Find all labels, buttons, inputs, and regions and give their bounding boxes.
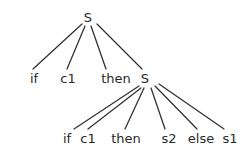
node-c1_1: c1 [60,71,75,86]
edge-S_root-c1_1 [67,26,85,69]
edge-S_inner-if_2 [74,86,139,129]
edge-S_root-then_1 [91,26,106,69]
edge-S_inner-c1_2 [88,88,141,129]
node-S_root: S [84,10,92,25]
parse-tree: Sifc1thenSifc1thens2elses1 [0,0,248,168]
node-c1_2: c1 [80,131,95,146]
node-then_1: then [101,71,131,86]
tree-nodes: Sifc1thenSifc1thens2elses1 [30,10,238,146]
node-then_2: then [111,131,141,146]
node-s1: s1 [222,131,237,146]
node-s2: s2 [161,131,176,146]
edge-S_inner-s1 [159,84,224,129]
node-if_1: if [30,71,39,86]
node-if_2: if [63,131,72,146]
edge-S_root-if_1 [33,24,82,69]
node-S_inner: S [141,71,149,86]
edge-S_inner-else [155,86,197,129]
node-else: else [188,131,214,146]
